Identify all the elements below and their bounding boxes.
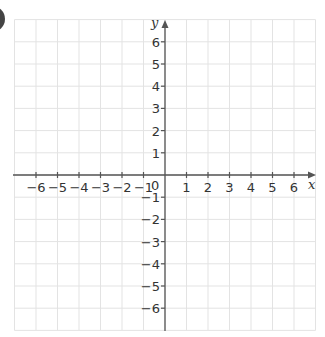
question-badge-icon [0, 6, 5, 32]
y-tick-label: −5 [141, 279, 160, 294]
x-tick-label: 2 [204, 180, 212, 195]
y-tick-label: 1 [152, 146, 160, 161]
x-tick-label: −6 [26, 180, 45, 195]
x-tick-label: −2 [112, 180, 131, 195]
y-axis-arrow-icon [162, 20, 169, 28]
y-tick-label: 6 [152, 35, 160, 50]
x-tick-label: 4 [247, 180, 255, 195]
x-tick-label: −5 [48, 180, 67, 195]
x-axis-label: x [308, 177, 316, 192]
axes [13, 20, 316, 331]
coordinate-grid: −6−5−4−3−2−1123456654321−1−2−3−4−5−6 x y… [0, 0, 325, 337]
y-axis-label: y [150, 15, 159, 30]
y-tick-label: −3 [141, 235, 160, 250]
y-tick-label: −2 [141, 212, 160, 227]
y-tick-label: 4 [152, 79, 160, 94]
y-tick-label: −4 [141, 257, 160, 272]
x-tick-label: −4 [69, 180, 88, 195]
y-tick-label: −6 [141, 301, 160, 316]
x-tick-label: 5 [268, 180, 276, 195]
x-tick-label: 3 [225, 180, 233, 195]
origin-label: 0 [151, 178, 159, 193]
x-tick-label: −3 [91, 180, 110, 195]
y-tick-label: 5 [152, 57, 160, 72]
x-tick-label: 6 [290, 180, 298, 195]
y-tick-label: 3 [152, 101, 160, 116]
x-tick-label: 1 [182, 180, 190, 195]
y-tick-label: 2 [152, 124, 160, 139]
